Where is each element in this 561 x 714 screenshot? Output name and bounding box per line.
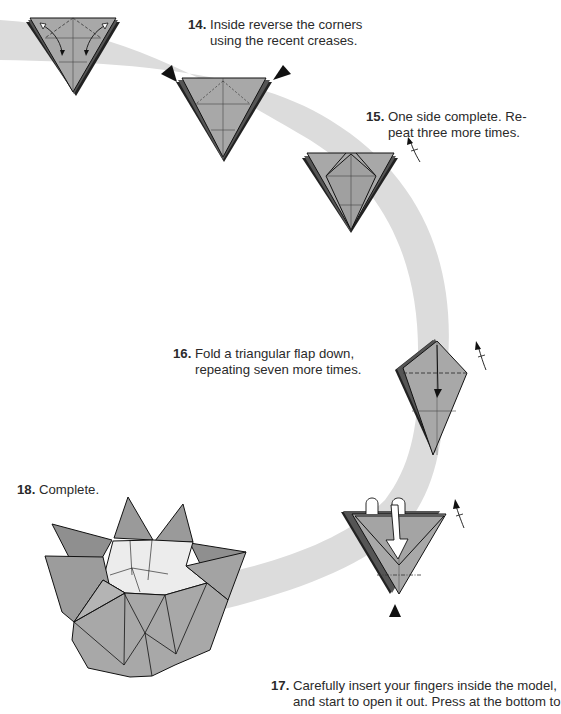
step-number: 15.	[366, 109, 388, 125]
turn-over-arrow-icon	[453, 499, 464, 528]
step-text-line: peat three more times.	[366, 125, 527, 141]
step-text-line: repeating seven more times.	[173, 362, 361, 378]
step-text-line: and start to open it out. Press at the b…	[271, 694, 561, 710]
step-text-line: Inside reverse the corners	[210, 17, 362, 32]
step-number: 14.	[188, 17, 210, 33]
step-text-line: One side complete. Re-	[388, 109, 527, 124]
step-15-caption: 15.One side complete. Re- peat three mor…	[366, 109, 527, 141]
step-14-caption: 14.Inside reverse the corners using the …	[188, 17, 362, 49]
step-17-caption: 17.Carefully insert your fingers inside …	[271, 678, 561, 710]
step-text-line: Carefully insert your fingers inside the…	[293, 678, 557, 693]
step-18-caption: 18.Complete.	[17, 482, 99, 498]
turn-over-arrow-icon	[475, 341, 486, 370]
push-arrow-bottom-icon	[389, 604, 401, 617]
step-text-line: Complete.	[39, 482, 99, 497]
step-text-line: using the recent creases.	[188, 33, 362, 49]
step-text-line: Fold a triangular flap down,	[195, 346, 354, 361]
step-16-caption: 16.Fold a triangular flap down, repeatin…	[173, 346, 361, 378]
step-number: 18.	[17, 482, 39, 498]
diagram-step18-complete	[45, 497, 246, 677]
diagram-step16-flap	[395, 339, 486, 455]
open-loop-arrow-icon	[366, 498, 378, 514]
step-number: 16.	[173, 346, 195, 362]
push-arrow-right-icon	[273, 65, 291, 80]
step-number: 17.	[271, 678, 293, 694]
